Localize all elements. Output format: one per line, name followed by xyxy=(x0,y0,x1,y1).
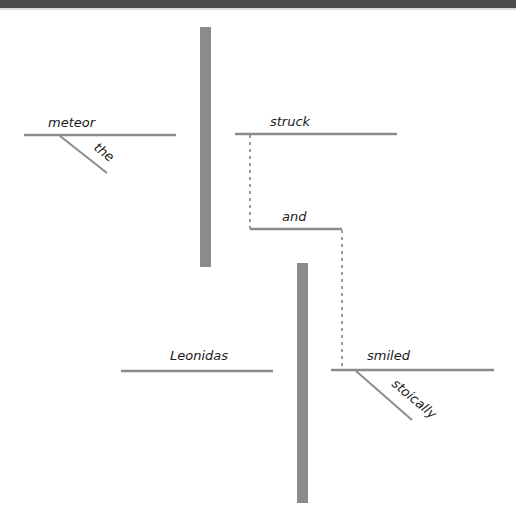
subject-word-meteor: meteor xyxy=(48,115,97,130)
modifier-word-stoically: stoically xyxy=(389,376,440,422)
modifier-word-the: the xyxy=(91,140,117,165)
conjunction: and xyxy=(250,135,342,370)
subject-predicate-divider-2 xyxy=(297,263,308,503)
subject-predicate-divider-1 xyxy=(200,27,211,267)
conjunction-word-and: and xyxy=(282,209,307,224)
predicate-word-smiled: smiled xyxy=(367,348,411,363)
subject-word-leonidas: Leonidas xyxy=(170,348,228,363)
clause-2: Leonidas smiled stoically xyxy=(121,263,494,503)
sentence-diagram: meteor the struck and Leonidas smiled st… xyxy=(0,0,516,522)
predicate-word-struck: struck xyxy=(270,114,311,129)
